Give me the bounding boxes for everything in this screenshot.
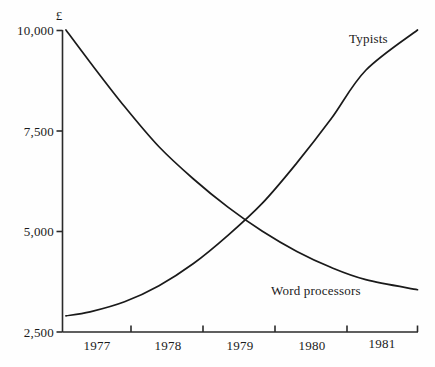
y-axis-ticks (57, 31, 63, 333)
series-line-typists (66, 30, 418, 316)
y-tick-label-5000: 5,000 (0, 224, 54, 240)
y-tick-label-10000: 10,000 (0, 23, 54, 39)
y-tick-label-2500: 2,500 (0, 325, 54, 341)
x-tick-label-1978: 1978 (138, 338, 198, 354)
series-annotation-word-processors: Word processors (271, 283, 361, 299)
x-axis-ticks (131, 326, 418, 333)
series-line-word-processors (66, 30, 418, 290)
chart-plot-area (0, 0, 435, 367)
x-tick-label-1981: 1981 (352, 336, 412, 352)
chart-figure: £ 10,000 7,500 5,000 2,500 1977 1978 197… (0, 0, 435, 367)
series-annotation-typists: Typists (349, 31, 388, 47)
y-tick-label-7500: 7,500 (0, 124, 54, 140)
x-tick-label-1979: 1979 (210, 338, 270, 354)
x-tick-label-1977: 1977 (67, 338, 127, 354)
x-tick-label-1980: 1980 (282, 338, 342, 354)
y-axis-currency-label: £ (44, 8, 74, 24)
